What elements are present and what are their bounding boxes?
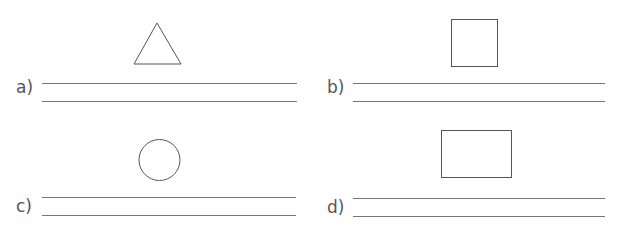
answer-line-d-2[interactable]	[353, 216, 605, 217]
item-label-d: d)	[327, 199, 344, 216]
rectangle-shape	[0, 0, 621, 238]
answer-line-d-1[interactable]	[353, 198, 605, 199]
